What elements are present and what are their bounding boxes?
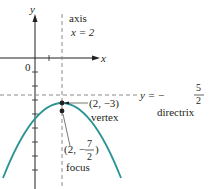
origin-label: 0 — [25, 61, 31, 73]
x-axis-arrow-icon — [92, 56, 100, 61]
vertex-label: vertex — [91, 111, 119, 123]
axis-label: axis — [69, 12, 87, 24]
focus-point — [60, 109, 65, 114]
parabola-diagram: y x 0 axis x = 2 y = − 5 2 directrix (2,… — [0, 0, 210, 189]
y-axis-arrow-icon — [33, 14, 38, 22]
directrix-label: directrix — [157, 106, 195, 118]
y-axis — [32, 14, 38, 189]
directrix-numerator: 5 — [196, 82, 201, 93]
focus-numerator: 7 — [87, 138, 92, 149]
focus-coords-suffix: ) — [95, 143, 99, 156]
directrix-equation: y = − — [139, 89, 165, 101]
vertex-point — [60, 101, 65, 106]
y-axis-label: y — [29, 3, 35, 15]
vertex-coords: (2, −3) — [89, 97, 119, 110]
focus-label: focus — [66, 161, 90, 173]
directrix-denominator: 2 — [196, 95, 201, 106]
axis-equation: x = 2 — [70, 26, 95, 38]
x-axis-label: x — [100, 52, 106, 64]
focus-coords-prefix: (2, − — [64, 143, 85, 156]
x-axis — [0, 55, 100, 61]
